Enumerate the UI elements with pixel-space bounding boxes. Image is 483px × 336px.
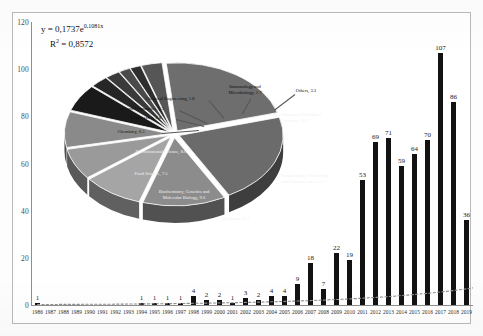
bar-rect xyxy=(373,142,379,305)
bar-value-label: 1 xyxy=(231,294,235,303)
bar-rect xyxy=(451,102,457,305)
y-tick-label: 80 xyxy=(3,112,29,121)
bar-rect xyxy=(191,296,197,305)
y-axis-tick-labels: 020406080100120 xyxy=(0,0,29,336)
bar-value-label: 19 xyxy=(346,251,353,260)
bar-value-label: 1 xyxy=(166,294,170,303)
bar-rect xyxy=(425,140,431,305)
x-tick-label: 1998 xyxy=(187,309,200,315)
x-tick-label: 1989 xyxy=(70,309,83,315)
x-tick-label: 2019 xyxy=(460,309,473,315)
y-tick-label: 60 xyxy=(3,159,29,168)
bar-rect xyxy=(308,263,314,305)
fit-exponent: 0,1081x xyxy=(84,23,104,29)
bar-column: 2 xyxy=(217,291,223,305)
bar-column: 18 xyxy=(308,254,314,305)
pie-slice-label: Food Science, 7.5 xyxy=(135,171,168,177)
x-tick-label: 2014 xyxy=(395,309,408,315)
bar-rect xyxy=(386,138,392,305)
bar-rect xyxy=(347,260,353,305)
x-tick-label: 1988 xyxy=(57,309,70,315)
pie-slice-label: Medicine, 13.1 xyxy=(222,216,250,222)
x-axis-tick-labels: 1986198719881989199019911992199319941995… xyxy=(31,307,473,333)
pie-slice-label: Others, 3.3 xyxy=(296,88,316,94)
bar-value-label: 107 xyxy=(435,44,446,53)
x-tick-label: 2008 xyxy=(317,309,330,315)
bar-rect xyxy=(243,298,249,305)
bar-value-label: 1 xyxy=(153,294,157,303)
x-tick-label: 2016 xyxy=(421,309,434,315)
bar-column: 86 xyxy=(451,93,457,305)
bar-column: 4 xyxy=(191,287,197,305)
bar-column: 64 xyxy=(412,145,418,305)
bar-value-label: 64 xyxy=(411,145,418,154)
x-tick-label: 2018 xyxy=(447,309,460,315)
bar-value-label: 53 xyxy=(359,171,366,180)
pie-slice-label: Pharmacology, Toxicologyand Pharmaceutic… xyxy=(279,173,328,184)
x-tick-label: 2013 xyxy=(382,309,395,315)
bar-value-label: 69 xyxy=(372,133,379,142)
pie-chart-overlay: Agricultural and BiologicalSciences, 22.… xyxy=(52,38,297,228)
y-tick-label: 0 xyxy=(3,301,29,310)
bar-rect xyxy=(204,300,210,305)
bar-column: 36 xyxy=(464,211,470,305)
bar-value-label: 2 xyxy=(218,291,222,300)
bar-value-label: 1 xyxy=(36,294,40,303)
x-tick-label: 2011 xyxy=(356,309,369,315)
bar-rect xyxy=(334,253,340,305)
pie-slice-label: Engineering, 2.8 xyxy=(131,115,162,121)
bar-value-label: 71 xyxy=(385,129,392,138)
x-tick-label: 1994 xyxy=(135,309,148,315)
x-tick-label: 1993 xyxy=(122,309,135,315)
bar-rect xyxy=(399,166,405,305)
bar-rect xyxy=(152,303,158,306)
pie-slice-label-line2: Microbiology, 1.7 xyxy=(228,90,261,96)
figure-canvas: 020406080100120 111114221324491872219536… xyxy=(0,0,483,336)
bar-column: 69 xyxy=(373,133,379,305)
bar-column: 3 xyxy=(243,289,249,305)
bar-rect xyxy=(35,303,41,306)
fit-equation: y = 0,1737e0,1081x xyxy=(41,20,103,35)
bar-column: 4 xyxy=(282,287,288,305)
pie-slice-label: Agricultural and BiologicalSciences, 22.… xyxy=(271,112,322,123)
bar-rect xyxy=(295,284,301,305)
bar-value-label: 70 xyxy=(424,131,431,140)
x-tick-label: 1986 xyxy=(31,309,44,315)
bar-column: 53 xyxy=(360,171,366,305)
x-tick-label: 2007 xyxy=(304,309,317,315)
x-tick-label: 2009 xyxy=(330,309,343,315)
pie-slice-label-line2: Sciences, 22.7 xyxy=(271,118,322,124)
x-tick-label: 2004 xyxy=(265,309,278,315)
bar-rect xyxy=(412,154,418,305)
bar-column: 9 xyxy=(295,275,301,305)
pie-slice-label-line2: Molecular Biology, 9.6 xyxy=(159,195,210,201)
x-tick-label: 2010 xyxy=(343,309,356,315)
bar-rect xyxy=(165,303,171,306)
bar-value-label: 1 xyxy=(179,294,183,303)
bar-rect xyxy=(269,296,275,305)
bar-rect xyxy=(282,296,288,305)
pie-slice-label: Immunology andMicrobiology, 1.7 xyxy=(228,84,261,95)
fit-equation-text: y = 0,1737e xyxy=(41,24,84,34)
bar-rect xyxy=(230,303,236,306)
y-tick-label: 40 xyxy=(3,206,29,215)
x-tick-label: 2002 xyxy=(239,309,252,315)
pie-slice-label: Arts and Humanities, 2.3 xyxy=(118,106,164,112)
bar-column: 4 xyxy=(269,287,275,305)
bar-value-label: 36 xyxy=(463,211,470,220)
bar-rect xyxy=(464,220,470,305)
bar-value-label: 7 xyxy=(322,280,326,289)
bar-value-label: 86 xyxy=(450,93,457,102)
x-tick-label: 2015 xyxy=(408,309,421,315)
bar-rect xyxy=(256,300,262,305)
bar-column: 1 xyxy=(35,294,41,306)
pie-slice-label: Chemical Engineering, 1.8 xyxy=(145,96,194,102)
bar-column: 59 xyxy=(399,157,405,305)
bar-column: 70 xyxy=(425,131,431,305)
bar-rect xyxy=(360,180,366,305)
y-tick-label: 120 xyxy=(3,18,29,27)
bar-rect xyxy=(178,303,184,306)
bar-value-label: 2 xyxy=(257,291,261,300)
bar-rect xyxy=(438,53,444,305)
pie-slice-label: Biochemistry, Genetics andMolecular Biol… xyxy=(159,189,210,200)
